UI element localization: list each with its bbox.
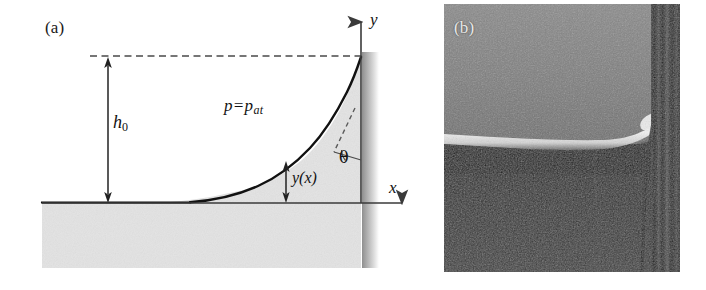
profile-label: y(x) — [292, 169, 317, 187]
schematic-svg — [0, 0, 440, 290]
panel-a-schematic: (a) h0 p=pat y(x) θ y x — [0, 0, 440, 290]
liquid-region — [42, 57, 361, 268]
photo-content — [444, 4, 680, 272]
panel-b-photograph: (b) — [444, 4, 680, 272]
pressure-label: p=pat — [224, 96, 263, 118]
height-label: h0 — [113, 112, 128, 135]
y-axis-label: y — [370, 10, 378, 30]
photograph-svg — [444, 4, 680, 272]
vertical-wall — [362, 52, 379, 268]
panel-a-label: (a) — [45, 18, 64, 38]
height-symbol: h — [113, 112, 122, 132]
figure-container: (a) h0 p=pat y(x) θ y x — [0, 0, 706, 290]
contact-angle-label: θ — [339, 148, 349, 167]
x-axis-label: x — [389, 178, 397, 198]
panel-b-label: (b) — [454, 18, 474, 38]
pressure-subscript: at — [253, 103, 263, 117]
height-subscript: 0 — [122, 120, 128, 134]
h0-dimension-arrow — [104, 57, 112, 203]
photo-right-bands — [651, 4, 680, 272]
pressure-symbol: p=p — [224, 96, 253, 115]
liquid-fill — [42, 57, 361, 268]
